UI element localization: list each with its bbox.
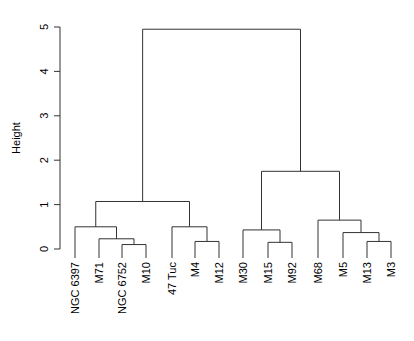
leaf-label: M5 [337,262,349,277]
leaf-label: M3 [385,262,397,277]
y-tick-label: 4 [38,68,50,74]
leaf-label: M15 [262,262,274,283]
leaf-label: 47 Tuc [166,262,178,296]
leaf-label: M13 [361,262,373,283]
y-tick-label: 5 [38,24,50,30]
leaf-label: M68 [312,262,324,283]
branch-l [262,171,340,230]
branch-a [122,245,146,258]
leaf-label: M92 [286,262,298,283]
branch-c [75,227,117,258]
leaf-label: M12 [213,262,225,283]
y-tick-label: 0 [38,246,50,252]
y-tick-label: 1 [38,202,50,208]
y-axis-title: Height [10,122,22,154]
leaf-labels: NGC 6397M71NGC 6752M1047 TucM4M12M30M15M… [69,262,397,314]
leaf-label: M10 [140,262,152,283]
leaf-label: NGC 6752 [116,262,128,314]
y-tick-label: 3 [38,113,50,119]
leaf-label: M4 [189,262,201,277]
leaf-label: NGC 6397 [69,262,81,314]
y-tick-label: 2 [38,157,50,163]
branch-j [343,233,379,258]
branch-f [96,201,190,226]
leaf-label: M71 [93,262,105,283]
branch-e [172,227,207,258]
branch-d [195,241,219,258]
y-axis: 012345 [38,24,60,252]
dendrogram-chart: 012345 NGC 6397M71NGC 6752M1047 TucM4M12… [0,0,414,341]
branch-i [367,241,391,258]
leaf-label: M30 [237,262,249,283]
branch-h [243,230,280,258]
dendrogram-branches [75,29,391,258]
branch-k [318,220,361,258]
branch-g [268,242,292,258]
branch-root [143,29,301,201]
branch-b [99,239,134,258]
